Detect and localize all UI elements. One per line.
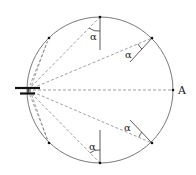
point-A-label: A (177, 84, 187, 97)
point-upper-left (48, 37, 51, 40)
alpha-label-upper-right: α (125, 49, 132, 60)
alpha-label-lower-right: α (124, 122, 131, 133)
alpha-label-top: α (90, 31, 97, 42)
point-top (99, 16, 102, 19)
point-bottom (99, 162, 102, 165)
point-A (172, 89, 175, 92)
alpha-label-bottom: α (89, 141, 96, 152)
normal-upper-right (130, 38, 152, 62)
ray-lower-left-2 (30, 90, 47, 139)
ray-upper-right (28, 38, 152, 90)
normal-lower-right (130, 120, 152, 143)
point-upper-right (151, 37, 154, 40)
ray-bottom (28, 90, 100, 163)
angle-arc-upper-right (138, 44, 142, 49)
point-lower-right (151, 142, 154, 145)
source-symbol (15, 88, 40, 94)
angle-arc-lower-right (139, 132, 142, 137)
point-lower-left (48, 142, 51, 145)
ray-lower-right (28, 90, 152, 143)
diagram-canvas: α α α α A (0, 0, 196, 175)
